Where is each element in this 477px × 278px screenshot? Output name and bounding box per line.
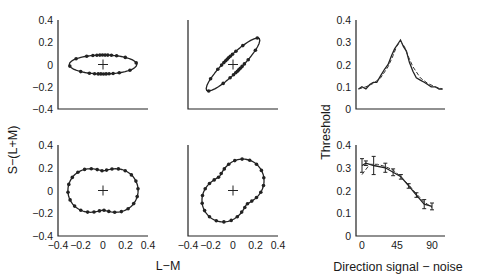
y-tick-label: 0.2 (38, 36, 53, 48)
x-tick-label: −0.4 (178, 239, 199, 251)
y-tick-label: 0.1 (336, 207, 351, 219)
panel-top-middle (188, 20, 278, 109)
data-point (200, 201, 204, 205)
data-point (110, 54, 114, 58)
y-tick-label: 0.3 (336, 162, 351, 174)
data-point (203, 209, 207, 213)
data-point (118, 71, 122, 75)
x-tick-label: −0.4 (48, 239, 69, 251)
data-point (243, 206, 247, 210)
axes (356, 145, 445, 236)
data-point (215, 219, 219, 223)
data-point (88, 71, 92, 75)
x-tick-label: −0.2 (70, 239, 91, 251)
data-point (107, 72, 111, 76)
panel-top-left: 0.40.20−0.2−0.4 (32, 14, 148, 115)
data-point (71, 176, 75, 180)
y-tick-label: 0.3 (336, 36, 351, 48)
data-point (73, 204, 77, 208)
x-tick-label: 0.4 (271, 239, 286, 251)
x-axis-label-left: L−M (156, 259, 181, 273)
data-point (201, 194, 205, 198)
data-point (95, 168, 99, 172)
data-point (255, 196, 259, 200)
data-point (74, 57, 78, 61)
data-point (113, 210, 117, 214)
data-point (243, 62, 247, 66)
data-point (229, 219, 233, 223)
data-point (134, 61, 138, 65)
data-point (219, 172, 223, 176)
origin-cross-icon (98, 60, 108, 70)
x-tick-label: 0 (230, 239, 236, 251)
y-tick-label: 0.4 (38, 14, 53, 26)
x-tick-label: 0.2 (248, 239, 263, 251)
data-point (228, 76, 232, 80)
panel-top-right: 0.40.30.20.10 (336, 14, 445, 115)
panel-bottom-right: 0.40.30.20.1004590 (336, 139, 445, 251)
data-point (110, 167, 114, 171)
data-point (107, 210, 111, 214)
y-tick-label: −0.2 (32, 207, 53, 219)
origin-cross-icon (98, 186, 108, 196)
data-point (136, 187, 140, 191)
data-point (93, 72, 97, 76)
data-point (248, 159, 252, 163)
y-tick-label: 0.2 (336, 185, 351, 197)
data-point (128, 68, 132, 72)
data-point (220, 63, 224, 67)
model-fit-line (359, 41, 443, 89)
data-point (86, 210, 90, 214)
data-point (262, 184, 266, 188)
data-point (240, 210, 244, 214)
data-point (105, 168, 109, 172)
y-tick-label: 0 (345, 103, 351, 115)
data-point (233, 159, 237, 163)
data-point (123, 169, 127, 173)
data-point (120, 210, 124, 214)
data-point (255, 162, 259, 166)
y-tick-label: 0.2 (336, 59, 351, 71)
data-point (91, 54, 95, 58)
data-point (132, 202, 136, 206)
y-axis-label-right: Threshold (319, 104, 333, 160)
y-tick-label: 0 (47, 59, 53, 71)
data-point (111, 72, 115, 76)
data-point (217, 175, 221, 179)
data-point (98, 209, 102, 213)
data-point (255, 36, 259, 40)
data-point (92, 210, 96, 214)
figure: S−(L+M) L−M Threshold Direction signal −… (0, 0, 477, 278)
data-point (83, 168, 87, 172)
data-point (262, 176, 266, 180)
x-tick-label: 0.4 (141, 239, 156, 251)
data-point (234, 49, 238, 53)
x-tick-label: 0 (359, 239, 365, 251)
data-point (223, 167, 227, 171)
data-point (227, 162, 231, 166)
data-point (76, 171, 80, 175)
data-point (221, 82, 225, 86)
y-tick-label: 0 (345, 230, 351, 242)
data-point (259, 190, 263, 194)
data-point (68, 64, 72, 68)
data-point (241, 44, 245, 48)
data-point (124, 56, 128, 60)
x-tick-label: 0.2 (118, 239, 133, 251)
data-point (236, 215, 240, 219)
data-point (90, 167, 94, 171)
x-axis-label-right: Direction signal − noise (333, 260, 463, 274)
data-point (246, 202, 250, 206)
y-tick-label: −0.2 (32, 81, 53, 93)
x-tick-label: 45 (391, 239, 403, 251)
data-point (208, 215, 212, 219)
data-point (216, 68, 220, 72)
y-tick-label: 0.1 (336, 81, 351, 93)
data-point (79, 70, 83, 74)
y-tick-label: 0.4 (336, 139, 351, 151)
y-tick-label: 0.4 (336, 14, 351, 26)
origin-cross-icon (228, 60, 238, 70)
origin-cross-icon (228, 186, 238, 196)
data-point (222, 220, 226, 224)
data-point (102, 209, 106, 213)
